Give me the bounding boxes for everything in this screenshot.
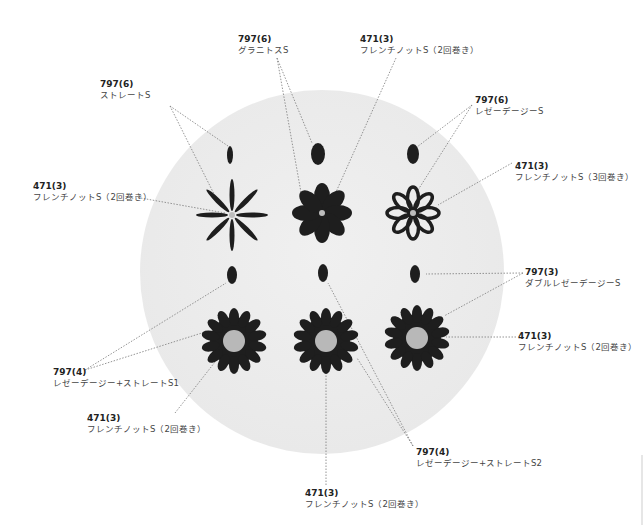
label-lazy-daisy: 797(6) レゼーデージーS xyxy=(475,95,543,117)
stitch-name: レゼーデージー+ストレートS2 xyxy=(416,458,542,469)
embroidery-diagram: 797(6) ストレートS 797(6) グラニトスS 471(3) フレンチノ… xyxy=(0,0,643,529)
thread-code: 471(3) xyxy=(360,34,479,45)
thread-code: 471(3) xyxy=(305,488,424,499)
embroidery-illustration xyxy=(0,0,643,529)
stitch-name: レゼーデージー+ストレートS1 xyxy=(53,378,179,389)
label-lazy-straight-1: 797(4) レゼーデージー+ストレートS1 xyxy=(53,367,179,389)
stitch-name: レゼーデージーS xyxy=(475,106,543,117)
stitch-name: フレンチノットS（2回巻き） xyxy=(87,424,206,435)
label-french-knot-right: 471(3) フレンチノットS（2回巻き） xyxy=(518,331,637,353)
stitch-name: フレンチノットS（2回巻き） xyxy=(518,342,637,353)
label-double-lazy-daisy: 797(3) ダブルレゼーデージーS xyxy=(525,267,620,289)
thread-code: 797(4) xyxy=(53,367,179,378)
label-lazy-straight-2: 797(4) レゼーデージー+ストレートS2 xyxy=(416,447,542,469)
label-french-knot-bottom-left: 471(3) フレンチノットS（2回巻き） xyxy=(87,413,206,435)
stitch-name: グラニトスS xyxy=(238,45,288,56)
thread-code: 471(3) xyxy=(515,161,634,172)
thread-code: 797(6) xyxy=(100,79,150,90)
thread-code: 471(3) xyxy=(518,331,637,342)
thread-code: 471(3) xyxy=(33,181,152,192)
stitch-name: ストレートS xyxy=(100,90,150,101)
thread-code: 471(3) xyxy=(87,413,206,424)
flower-granitos xyxy=(292,183,352,243)
thread-code: 797(3) xyxy=(525,267,620,278)
label-french-knot-left: 471(3) フレンチノットS（2回巻き） xyxy=(33,181,152,203)
thread-code: 797(6) xyxy=(475,95,543,106)
stitch-name: フレンチノットS（3回巻き） xyxy=(515,172,634,183)
label-straight-stitch: 797(6) ストレートS xyxy=(100,79,150,101)
label-french-knot-top: 471(3) フレンチノットS（2回巻き） xyxy=(360,34,479,56)
thread-code: 797(6) xyxy=(238,34,288,45)
stitch-name: ダブルレゼーデージーS xyxy=(525,278,620,289)
label-french-knot-bottom: 471(3) フレンチノットS（2回巻き） xyxy=(305,488,424,510)
label-french-knot-3: 471(3) フレンチノットS（3回巻き） xyxy=(515,161,634,183)
stitch-name: フレンチノットS（2回巻き） xyxy=(305,499,424,510)
flower-straight-stitch xyxy=(196,179,268,251)
label-granitos: 797(6) グラニトスS xyxy=(238,34,288,56)
stitch-name: フレンチノットS（2回巻き） xyxy=(33,192,152,203)
stitch-name: フレンチノットS（2回巻き） xyxy=(360,45,479,56)
thread-code: 797(4) xyxy=(416,447,542,458)
